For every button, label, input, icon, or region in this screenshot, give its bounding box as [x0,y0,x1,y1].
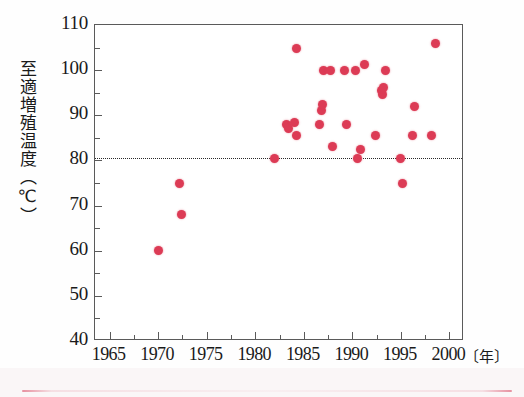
x-axis-tick [110,332,111,339]
y-axis-tick-label: 110 [42,12,88,34]
y-axis-tick [95,206,102,207]
data-point [318,100,327,109]
y-axis-tick [95,115,102,116]
y-axis-tick [95,70,102,71]
x-axis-unit-label: 〔年〕 [464,345,509,366]
data-point [154,246,163,255]
y-axis-title: 至適増殖温度（℃） [6,60,40,225]
x-axis-tick [158,332,159,339]
y-axis-tick-minor [95,318,100,319]
y-axis-tick [95,160,102,161]
y-axis-tick-label: 80 [42,147,88,169]
data-point [351,66,360,75]
plot-frame [94,24,463,340]
data-point [410,102,419,111]
data-point [290,118,299,127]
data-point [431,39,440,48]
data-point [360,60,369,69]
data-point [270,154,279,163]
y-axis-tick-label: 60 [42,238,88,260]
x-axis-tick [401,332,402,339]
data-point [292,44,301,53]
x-axis-tick-minor [231,335,232,340]
x-axis-tick-minor [182,335,183,340]
x-axis-tick [449,332,450,339]
data-point [292,131,301,140]
data-point [340,66,349,75]
y-axis-tick-minor [95,48,100,49]
y-axis-tick [95,251,102,252]
x-axis-tick-minor [134,335,135,340]
y-axis-tick-label: 90 [42,102,88,124]
data-point [408,131,417,140]
data-point [175,179,184,188]
data-point [427,131,436,140]
x-axis-tick [304,332,305,339]
x-axis-tick-minor [328,335,329,340]
y-axis-tick-label: 70 [42,193,88,215]
y-axis-tick-minor [95,183,100,184]
x-axis-tick [352,332,353,339]
data-point [398,179,407,188]
scan-line-artifact [22,390,512,392]
data-point [315,120,324,129]
y-axis-tick-minor [95,93,100,94]
data-point [326,66,335,75]
data-point [396,154,405,163]
plot-area [95,25,462,339]
data-point [356,145,365,154]
y-axis-tick-label: 50 [42,283,88,305]
data-point [342,120,351,129]
y-axis-tick [95,296,102,297]
x-axis-tick-minor [425,335,426,340]
y-axis-tick-label: 100 [42,57,88,79]
data-point [381,66,390,75]
data-point [378,90,387,99]
data-point [328,142,337,151]
data-point [371,131,380,140]
data-point [379,83,388,92]
y-axis-tick-minor [95,228,100,229]
x-axis-tick-minor [377,335,378,340]
y-axis-tick-minor [95,273,100,274]
x-axis-tick [207,332,208,339]
scan-tint-artifact [0,368,524,397]
y-axis-tick-minor [95,138,100,139]
x-axis-tick [255,332,256,339]
figure-container: 至適増殖温度（℃） 110100908070605040 19651970197… [0,0,524,397]
data-point [177,210,186,219]
x-axis-tick-minor [280,335,281,340]
data-point [353,154,362,163]
